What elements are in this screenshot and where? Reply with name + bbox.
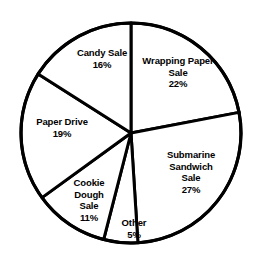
pie-slice [131,112,241,242]
pie-chart: Wrapping PaperSale22%SubmarineSandwichSa… [0,0,258,270]
pie-chart-graphic [0,0,258,270]
